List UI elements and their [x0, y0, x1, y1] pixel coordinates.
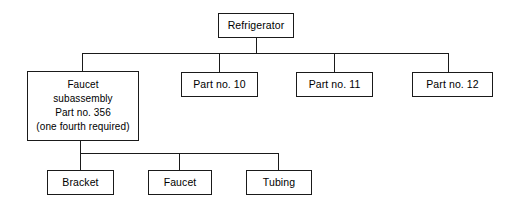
node-part-no-10: Part no. 10: [181, 72, 258, 97]
node-faucet: Faucet: [148, 170, 212, 195]
node-faucet-subassembly: Faucet subassembly Part no. 356 (one fou…: [27, 71, 139, 141]
node-tubing: Tubing: [246, 170, 312, 195]
node-refrigerator: Refrigerator: [218, 13, 294, 38]
node-part-no-11: Part no. 11: [296, 72, 373, 97]
node-bracket: Bracket: [47, 170, 114, 195]
node-part-no-12: Part no. 12: [412, 72, 493, 97]
bom-diagram: Refrigerator Faucet subassembly Part no.…: [0, 0, 507, 206]
